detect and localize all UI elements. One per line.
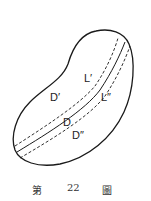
label-curve-L-double-prime: L″ [101, 92, 111, 103]
label-region-D-prime: D′ [50, 92, 60, 103]
domain-boundary [13, 30, 133, 165]
caption-suffix: 圖 [102, 182, 112, 197]
curve-L-double-prime-dashed [20, 46, 130, 158]
kidney-shaped-domain-diagram [0, 0, 151, 201]
label-region-D-double-prime: D″ [72, 130, 84, 141]
figure-22: D′ L′ L″ D D″ 第 22 圖 [0, 0, 151, 201]
label-curve-L-prime: L′ [84, 73, 92, 84]
caption-prefix: 第 [32, 182, 42, 197]
caption-number: 22 [67, 182, 80, 193]
label-point-D: D [63, 117, 71, 128]
